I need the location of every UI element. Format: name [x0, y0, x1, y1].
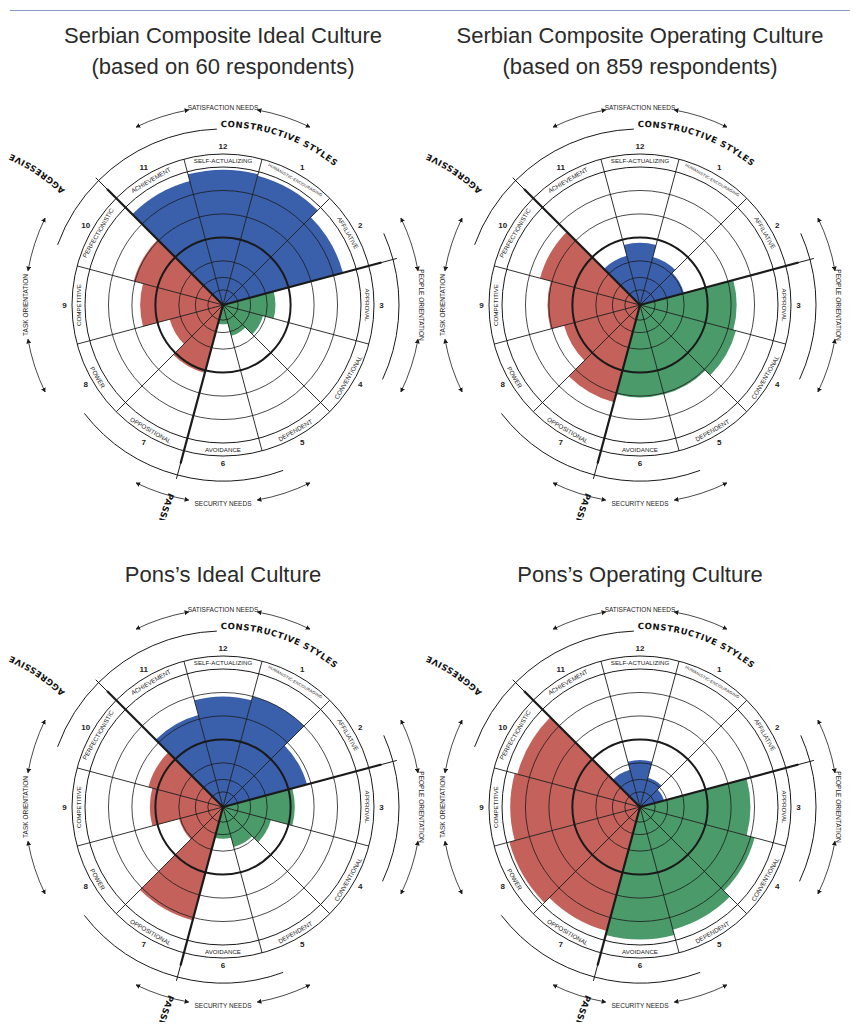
sector-label: POWER	[89, 867, 107, 891]
panel-title: Pons’s Ideal Culture	[8, 561, 438, 588]
sector-label: HUMANISTIC-ENCOURAGING	[684, 162, 740, 197]
sector-number: 2	[775, 221, 780, 230]
task-arrow-bottom	[28, 841, 45, 893]
sector-number: 7	[559, 438, 564, 447]
sector-number: 10	[81, 723, 90, 732]
security-arrow-right	[257, 985, 309, 1002]
circumplex-group: CONSTRUCTIVE STYLESPASSIVE / DEFENSIVE S…	[425, 606, 842, 1023]
cluster-tick	[513, 178, 527, 192]
sector-number: 3	[379, 301, 384, 310]
people-arrow-bottom	[401, 841, 418, 893]
sector-number: 8	[84, 882, 89, 891]
sector-number: 11	[140, 665, 149, 674]
sector-number: 6	[221, 459, 226, 468]
aggressive-defensive-label: AGGRESSIVE / DEFENSIVE STYLES	[8, 137, 67, 195]
passive-arc	[800, 761, 816, 881]
sector-label: APPROVAL	[781, 289, 788, 322]
sector-number: 10	[81, 221, 90, 230]
sector-label: POWER	[89, 365, 107, 389]
task-orientation-label: TASK ORIENTATION	[22, 776, 29, 838]
security-needs-label: SECURITY NEEDS	[195, 1002, 253, 1009]
sector-number: 12	[636, 644, 645, 653]
satisfaction-arrow-left	[553, 110, 605, 127]
circumplex-chart: CONSTRUCTIVE STYLESPASSIVE / DEFENSIVE S…	[425, 90, 855, 520]
circumplex-group: CONSTRUCTIVE STYLESPASSIVE / DEFENSIVE S…	[8, 104, 424, 521]
passive-arc	[800, 259, 816, 379]
people-arrow-top	[818, 218, 835, 270]
satisfaction-needs-label: SATISFACTION NEEDS	[188, 104, 259, 111]
sector-number: 1	[300, 163, 305, 172]
people-orientation-label: PEOPLE ORIENTATION	[418, 269, 425, 341]
sector-label: AVOIDANCE	[622, 948, 658, 955]
task-orientation-label: TASK ORIENTATION	[22, 274, 29, 336]
sector-number: 7	[559, 940, 564, 949]
sector-label: CONVENTIONAL	[333, 354, 364, 400]
sector-number: 1	[717, 163, 722, 172]
constructive-arc-end	[801, 233, 810, 259]
satisfaction-needs-label: SATISFACTION NEEDS	[188, 606, 259, 613]
sector-number: 11	[557, 665, 566, 674]
sector-number: 6	[221, 961, 226, 970]
task-orientation-label: TASK ORIENTATION	[439, 776, 446, 838]
people-arrow-top	[401, 720, 418, 772]
people-orientation-label: PEOPLE ORIENTATION	[835, 771, 842, 843]
sector-label: PERFECTIONISTIC	[81, 708, 115, 760]
task-arrow-bottom	[445, 841, 462, 893]
sector-label: HUMANISTIC-ENCOURAGING	[684, 664, 740, 699]
security-needs-label: SECURITY NEEDS	[612, 500, 670, 507]
sector-number: 3	[379, 803, 384, 812]
aggressive-defensive-label: AGGRESSIVE / DEFENSIVE STYLES	[425, 137, 484, 195]
sector-label: SELF-ACTUALIZING	[194, 157, 253, 164]
sector-number: 9	[62, 803, 67, 812]
sector-number: 9	[62, 301, 67, 310]
satisfaction-arrow-left	[136, 110, 188, 127]
panel-title: Serbian Composite Ideal Culture	[8, 22, 438, 49]
security-needs-label: SECURITY NEEDS	[612, 1002, 670, 1009]
panel-subtitle: (based on 859 respondents)	[425, 53, 855, 80]
circumplex-group: CONSTRUCTIVE STYLESPASSIVE / DEFENSIVE S…	[425, 104, 842, 521]
sector-label: COMPETITIVE	[492, 284, 499, 326]
circumplex-chart: CONSTRUCTIVE STYLESPASSIVE / DEFENSIVE S…	[425, 592, 855, 1022]
sector-number: 5	[300, 940, 305, 949]
people-arrow-top	[818, 720, 835, 772]
security-arrow-right	[674, 985, 726, 1002]
people-arrow-bottom	[818, 841, 835, 893]
constructive-arc-end	[384, 233, 393, 259]
panel-serbian-ideal: Serbian Composite Ideal Culture (based o…	[8, 22, 438, 522]
sector-number: 1	[717, 665, 722, 674]
circumplex-group: CONSTRUCTIVE STYLESPASSIVE / DEFENSIVE S…	[8, 606, 424, 1023]
sector-number: 5	[717, 438, 722, 447]
passive-defensive-label: PASSIVE / DEFENSIVE STYLES	[151, 492, 178, 520]
sector-label: SELF-ACTUALIZING	[611, 157, 670, 164]
sector-label: AVOIDANCE	[622, 446, 658, 453]
sector-label: COMPETITIVE	[492, 786, 499, 828]
sector-label: PERFECTIONISTIC	[498, 206, 532, 258]
panel-serbian-operating: Serbian Composite Operating Culture (bas…	[425, 22, 855, 522]
sector-number: 3	[796, 803, 801, 812]
sector-number: 4	[358, 380, 363, 389]
sector-label: POWER	[506, 365, 524, 389]
sector-number: 10	[498, 723, 507, 732]
sector-number: 9	[479, 301, 484, 310]
top-rule	[10, 10, 850, 11]
panel-subtitle: (based on 60 respondents)	[8, 53, 438, 80]
sector-label: HUMANISTIC-ENCOURAGING	[267, 664, 323, 699]
sector-label: AVOIDANCE	[205, 948, 241, 955]
circumplex-chart: CONSTRUCTIVE STYLESPASSIVE / DEFENSIVE S…	[8, 90, 438, 520]
security-arrow-left	[136, 985, 188, 1002]
sector-number: 5	[717, 940, 722, 949]
sector-label: OPPOSITIONAL	[129, 416, 173, 445]
security-arrow-right	[674, 483, 726, 500]
passive-defensive-label: PASSIVE / DEFENSIVE STYLES	[568, 492, 595, 520]
sector-label: OPPOSITIONAL	[546, 416, 590, 445]
task-arrow-top	[28, 720, 45, 772]
cluster-tick	[513, 680, 527, 694]
security-arrow-right	[257, 483, 309, 500]
security-arrow-left	[136, 483, 188, 500]
sector-number: 8	[84, 380, 89, 389]
sector-number: 1	[300, 665, 305, 674]
task-orientation-label: TASK ORIENTATION	[439, 274, 446, 336]
task-arrow-bottom	[28, 339, 45, 391]
sector-label: APPROVAL	[781, 791, 788, 824]
task-arrow-top	[445, 218, 462, 270]
